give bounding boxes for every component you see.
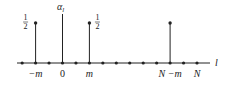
tick-label: 0: [60, 68, 65, 79]
horizontal-axis-label: l: [215, 57, 218, 68]
stem-value-label: 12: [95, 13, 100, 31]
axis-dot: [101, 61, 104, 64]
tick-label: m: [86, 68, 93, 79]
stem-dot: [168, 21, 171, 24]
axis-dot: [142, 61, 145, 64]
fraction-numerator: 1: [95, 13, 99, 22]
stem-dot: [34, 21, 37, 24]
axis-dot: [115, 61, 118, 64]
axis-dot: [61, 61, 64, 64]
axis-dot: [195, 61, 198, 64]
tick-label: N: [193, 68, 202, 79]
stem-diagram: αl l 1212 −m0mN −mN: [0, 0, 234, 87]
axis-dot: [21, 61, 24, 64]
axis-dot: [74, 61, 77, 64]
axis-dot: [182, 61, 185, 64]
stem-dot: [88, 21, 91, 24]
fraction-denominator: 2: [24, 22, 28, 31]
fraction-denominator: 2: [95, 22, 99, 31]
axis-dot: [47, 61, 50, 64]
axis-dot: [128, 61, 131, 64]
stem-value-label: 12: [23, 13, 28, 31]
axis-dot: [155, 61, 158, 64]
tick-label: N −m: [158, 68, 182, 79]
tick-label: −m: [29, 68, 43, 79]
fraction-numerator: 1: [24, 13, 28, 22]
vertical-axis-label: αl: [57, 1, 64, 14]
